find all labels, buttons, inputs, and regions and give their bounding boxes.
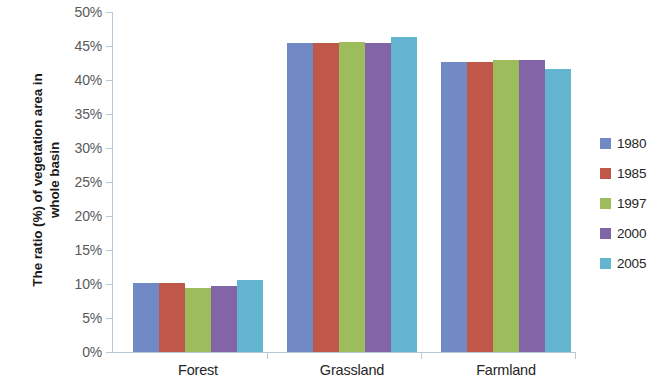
legend-swatch-icon (600, 198, 611, 209)
y-axis-tick-mark (106, 12, 112, 13)
legend-label: 1997 (617, 196, 646, 211)
y-axis-tick-label: 25% (40, 174, 102, 190)
y-axis-tick-mark (106, 182, 112, 183)
bar-1980-grassland[interactable] (287, 43, 313, 352)
bar-chart: The ratio (%) of vegetation area in whol… (0, 0, 661, 387)
y-axis-tick-mark (106, 80, 112, 81)
y-axis-tick-label: 15% (40, 242, 102, 258)
y-axis-tick-label: 20% (40, 208, 102, 224)
bar-1980-forest[interactable] (133, 283, 159, 352)
y-axis-tick-label: 35% (40, 106, 102, 122)
x-axis-category-label: Grassland (292, 362, 412, 378)
legend-item-2000[interactable]: 2000 (600, 218, 661, 248)
legend-swatch-icon (600, 228, 611, 239)
x-axis-line (112, 352, 575, 353)
bar-1997-farmland[interactable] (493, 60, 519, 352)
legend-item-2005[interactable]: 2005 (600, 248, 661, 278)
legend-label: 1985 (617, 166, 646, 181)
y-axis-tick-mark (106, 318, 112, 319)
x-axis-tick-mark (575, 352, 576, 359)
legend: 19801985199720002005 (600, 128, 661, 278)
y-axis-tick-labels: 50%45%40%35%30%25%20%15%10%5%0% (40, 0, 102, 387)
x-axis-tick-mark (421, 352, 422, 359)
bar-2000-grassland[interactable] (365, 43, 391, 352)
bar-2000-farmland[interactable] (519, 60, 545, 352)
legend-item-1997[interactable]: 1997 (600, 188, 661, 218)
legend-swatch-icon (600, 258, 611, 269)
bar-2005-forest[interactable] (237, 280, 263, 352)
bar-1980-farmland[interactable] (441, 62, 467, 352)
y-axis-tick-mark (106, 216, 112, 217)
bar-group-forest (133, 12, 263, 352)
legend-label: 1980 (617, 136, 646, 151)
legend-label: 2000 (617, 226, 646, 241)
bar-1997-forest[interactable] (185, 288, 211, 352)
y-axis-tick-label: 40% (40, 72, 102, 88)
x-axis-category-label: Forest (138, 362, 258, 378)
bar-1985-farmland[interactable] (467, 62, 493, 352)
y-axis-tick-mark (106, 148, 112, 149)
bar-group-grassland (287, 12, 417, 352)
y-axis-tick-mark (106, 284, 112, 285)
legend-item-1985[interactable]: 1985 (600, 158, 661, 188)
x-axis-category-label: Farmland (446, 362, 566, 378)
bar-1997-grassland[interactable] (339, 42, 365, 352)
plot-area (113, 12, 575, 352)
y-axis-tick-label: 45% (40, 38, 102, 54)
bar-1985-forest[interactable] (159, 283, 185, 352)
legend-swatch-icon (600, 138, 611, 149)
y-axis-tick-mark (106, 114, 112, 115)
y-axis-tick-label: 30% (40, 140, 102, 156)
bar-group-farmland (441, 12, 571, 352)
bar-1985-grassland[interactable] (313, 43, 339, 352)
bar-2005-grassland[interactable] (391, 37, 417, 352)
y-axis-tick-label: 0% (40, 344, 102, 360)
y-axis-tick-label: 10% (40, 276, 102, 292)
legend-label: 2005 (617, 256, 646, 271)
x-axis-tick-mark (267, 352, 268, 359)
y-axis-tick-label: 5% (40, 310, 102, 326)
y-axis-tick-mark (106, 352, 112, 353)
legend-swatch-icon (600, 168, 611, 179)
y-axis-tick-mark (106, 46, 112, 47)
legend-item-1980[interactable]: 1980 (600, 128, 661, 158)
y-axis-tick-label: 50% (40, 4, 102, 20)
y-axis-tick-mark (106, 250, 112, 251)
bar-2000-forest[interactable] (211, 286, 237, 352)
bar-2005-farmland[interactable] (545, 69, 571, 352)
